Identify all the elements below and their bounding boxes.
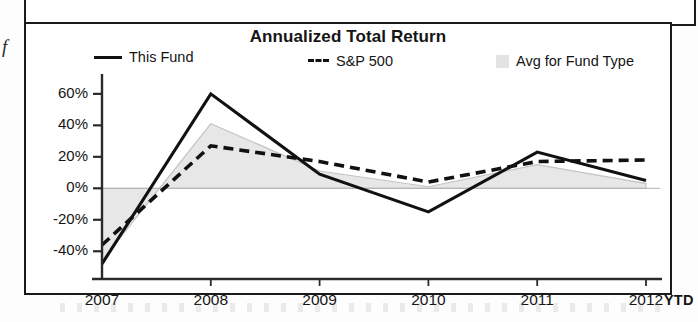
y-axis-tick-label: 60% xyxy=(28,84,88,101)
y-axis-tick-label: 0% xyxy=(28,178,88,195)
plot-area: 60%40%20%0%-20%-40%200720082009201020112… xyxy=(26,24,670,293)
chart-plot-svg xyxy=(26,24,670,293)
chart-panel: Annualized Total Return This Fund S&P 50… xyxy=(24,22,672,295)
y-axis-tick-label: 40% xyxy=(28,115,88,132)
x-axis-ytd-label: YTD xyxy=(664,292,694,308)
margin-text-fragment: f xyxy=(2,36,7,58)
y-axis-tick-label: 20% xyxy=(28,147,88,164)
scan-artifact xyxy=(60,303,660,312)
scanned-page: f Annualized Total Return This Fund S&P … xyxy=(0,0,698,322)
y-axis-tick-label: -40% xyxy=(28,241,88,258)
y-axis-tick-label: -20% xyxy=(28,210,88,227)
